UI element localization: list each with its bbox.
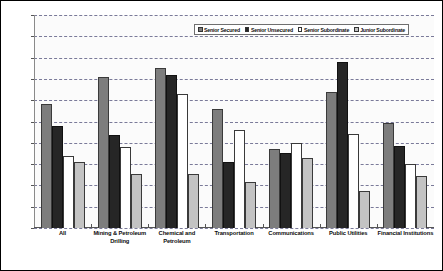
bar-group [148, 15, 205, 228]
bar[interactable] [326, 92, 337, 228]
legend-label: Senior Secured [204, 27, 240, 33]
bar[interactable] [280, 153, 291, 228]
bar[interactable] [394, 146, 405, 228]
legend-swatch-icon [245, 27, 250, 32]
x-axis-category-labels: AllMining & Petroleum DrillingChemical a… [34, 230, 434, 245]
bar[interactable] [74, 162, 85, 228]
bar[interactable] [120, 147, 131, 228]
bar-group [320, 15, 377, 228]
bar[interactable] [223, 162, 234, 228]
legend-item[interactable]: Senior Subordinate [298, 27, 349, 33]
bar[interactable] [234, 130, 245, 228]
bar[interactable] [98, 77, 109, 228]
bar[interactable] [63, 156, 74, 228]
x-axis-category-label: Transportation [205, 230, 262, 245]
bar-group [34, 15, 91, 228]
bar[interactable] [359, 191, 370, 228]
bar[interactable] [348, 134, 359, 228]
legend-label: Senior Unsecured [251, 27, 293, 33]
legend-label: Senior Subordinate [304, 27, 349, 33]
bar-group [263, 15, 320, 228]
bar[interactable] [245, 182, 256, 228]
bar[interactable] [212, 109, 223, 228]
legend-swatch-icon [298, 27, 303, 32]
bar[interactable] [131, 174, 142, 228]
x-axis-group-separator [320, 224, 321, 228]
bar[interactable] [383, 123, 394, 228]
x-axis-group-separator [263, 224, 264, 228]
x-axis-category-label: Public Utilities [320, 230, 377, 245]
bar[interactable] [269, 149, 280, 228]
bar[interactable] [177, 94, 188, 228]
x-axis-group-separator [148, 224, 149, 228]
bar[interactable] [405, 164, 416, 228]
legend-swatch-icon [198, 27, 203, 32]
bar[interactable] [41, 104, 52, 228]
bar-group [205, 15, 262, 228]
plot-area: 0%10%20%30%40%50%60%70%80%90%100% [34, 15, 434, 228]
bar[interactable] [416, 176, 427, 228]
x-axis-group-separator [205, 224, 206, 228]
legend-label: Junior Subordinate [360, 27, 405, 33]
bar[interactable] [155, 68, 166, 228]
bar[interactable] [291, 143, 302, 228]
legend-swatch-icon [354, 27, 359, 32]
x-axis-category-label: All [34, 230, 91, 245]
gridline [34, 228, 434, 229]
x-axis-group-separator [91, 224, 92, 228]
bar-group [91, 15, 148, 228]
bar[interactable] [109, 135, 120, 228]
x-axis-category-label: Communications [263, 230, 320, 245]
bar[interactable] [302, 158, 313, 228]
x-axis-group-separator [377, 224, 378, 228]
x-axis-category-label: Chemical and Petroleum [148, 230, 205, 245]
x-axis-category-label: Financial Institutions [377, 230, 434, 245]
bar-group [377, 15, 434, 228]
chart-legend: Senior SecuredSenior UnsecuredSenior Sub… [194, 24, 409, 35]
y-axis-tick-mark [31, 228, 34, 229]
bar[interactable] [337, 62, 348, 228]
legend-item[interactable]: Senior Secured [198, 27, 240, 33]
bar-series-container [34, 15, 434, 228]
bar[interactable] [166, 75, 177, 228]
legend-item[interactable]: Senior Unsecured [245, 27, 293, 33]
bar[interactable] [188, 174, 199, 228]
chart-figure: 0%10%20%30%40%50%60%70%80%90%100% AllMin… [0, 0, 443, 271]
x-axis-category-label: Mining & Petroleum Drilling [91, 230, 148, 245]
bar[interactable] [52, 126, 63, 228]
legend-item[interactable]: Junior Subordinate [354, 27, 405, 33]
